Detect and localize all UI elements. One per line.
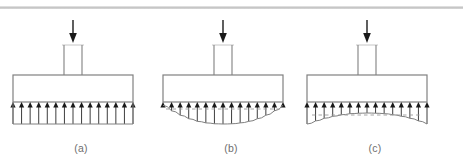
load-arrow-c [363,20,371,43]
figure-a-drawing [6,14,156,140]
top-divider-rule [0,6,463,9]
figure-panel-c: (c) [300,14,450,158]
column-c [356,45,378,75]
load-arrow-a [69,20,77,43]
pressure-arrows-b [160,102,285,124]
column-a [62,45,84,75]
footing-b [163,75,283,102]
pressure-arrows-a [10,102,135,124]
figure-panel-a: (a) [6,14,156,158]
figure-c-drawing [300,14,450,140]
diagram-canvas: (a) (b) [0,0,463,158]
footing-c [307,75,427,102]
column-b [212,45,234,75]
footing-a [13,75,133,102]
figure-panel-b: (b) [156,14,306,158]
figure-label-a: (a) [6,142,156,154]
figure-label-c: (c) [300,142,450,154]
load-arrow-b [219,20,227,43]
figure-b-drawing [156,14,306,140]
figure-label-b: (b) [156,142,306,154]
